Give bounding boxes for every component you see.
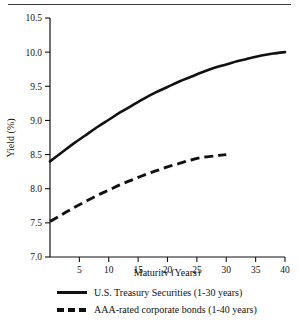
chart-legend: U.S. Treasury Securities (1-30 years) AA… [0, 284, 299, 324]
chart-plot-area: 7.07.58.08.59.09.510.010.5 5101520253035… [0, 8, 299, 276]
x-tick-group [79, 257, 285, 262]
x-tick-label: 40 [280, 265, 290, 275]
x-tick-label: 30 [222, 265, 232, 275]
y-axis-label: Yield (%) [5, 118, 17, 157]
y-tick-label: 9.0 [30, 116, 42, 126]
x-tick-label: 35 [251, 265, 261, 275]
y-tick-group [45, 18, 50, 257]
header-rule [8, 4, 291, 5]
legend-label-treasury: U.S. Treasury Securities (1-30 years) [94, 284, 242, 301]
y-tick-label: 10.5 [25, 13, 42, 23]
y-tick-label: 8.0 [30, 184, 42, 194]
y-tick-label: 7.0 [30, 252, 42, 262]
legend-item-treasury: U.S. Treasury Securities (1-30 years) [0, 284, 299, 301]
x-tick-label: 10 [104, 265, 114, 275]
x-axis-label: Maturity (Years) [134, 267, 200, 276]
series-line-corporate [50, 155, 226, 222]
y-axis: 7.07.58.08.59.09.510.010.5 [25, 13, 50, 262]
y-tick-label: 7.5 [30, 218, 42, 228]
legend-swatch-dashed-line-icon [57, 301, 87, 318]
y-tick-label: 10.0 [25, 48, 42, 58]
series-line-treasury [50, 52, 285, 161]
x-tick-label: 5 [77, 265, 82, 275]
yield-curve-figure: 7.07.58.08.59.09.510.010.5 5101520253035… [0, 0, 299, 324]
legend-label-corporate: AAA-rated corporate bonds (1-40 years) [94, 301, 257, 318]
y-tick-label: 9.5 [30, 82, 42, 92]
y-tick-label: 8.5 [30, 150, 42, 160]
chart-svg: 7.07.58.08.59.09.510.010.5 5101520253035… [0, 8, 299, 276]
series-group [50, 52, 285, 221]
legend-item-corporate: AAA-rated corporate bonds (1-40 years) [0, 301, 299, 318]
legend-swatch-solid-line-icon [57, 284, 87, 301]
y-tick-label-group: 7.07.58.08.59.09.510.010.5 [25, 13, 42, 262]
